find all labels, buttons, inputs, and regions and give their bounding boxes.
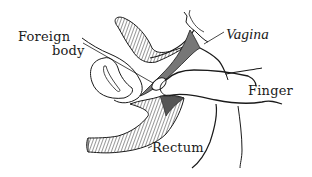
diagram-canvas: Foreign body Vagina Finger Rectum [0,0,312,177]
hatched-upper-organ [115,17,186,62]
label-finger: Finger [248,84,293,97]
finger-upper-contour [166,70,256,86]
vagina-leader [204,32,224,44]
label-rectum: Rectum [152,141,204,154]
label-vagina: Vagina [226,28,269,41]
label-foreign-body-line2: body [52,44,85,57]
label-foreign-body-line1: Foreign [18,30,70,43]
vaginal-wall [140,30,200,96]
